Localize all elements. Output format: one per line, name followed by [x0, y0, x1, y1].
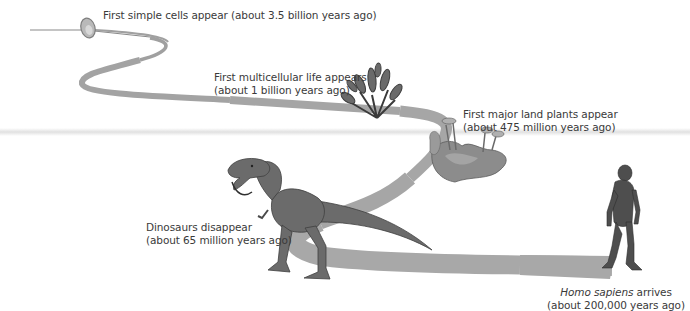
label-homo-sapiens: Homo sapiens arrives (about 200,000 year…: [541, 286, 690, 311]
label-dinosaurs-line2: (about 65 million years ago): [146, 234, 292, 247]
label-homo-sapiens-verb: arrives: [633, 286, 671, 298]
label-land-plants-line1: First major land plants appear: [463, 108, 618, 121]
evolution-timeline: First simple cells appear (about 3.5 bil…: [0, 0, 690, 311]
label-homo-sapiens-line1: Homo sapiens arrives: [541, 286, 690, 299]
label-multicellular: First multicellular life appears (about …: [214, 71, 367, 97]
label-land-plants: First major land plants appear (about 47…: [463, 108, 618, 134]
label-dinosaurs: Dinosaurs disappear (about 65 million ye…: [146, 221, 292, 247]
cell-icon: [79, 17, 98, 40]
label-multicellular-line2: (about 1 billion years ago): [214, 84, 367, 97]
label-dinosaurs-line1: Dinosaurs disappear: [146, 221, 292, 234]
label-simple-cells-line1: First simple cells appear (about 3.5 bil…: [103, 9, 377, 21]
label-land-plants-line2: (about 475 million years ago): [463, 121, 618, 134]
label-simple-cells: First simple cells appear (about 3.5 bil…: [103, 9, 377, 22]
species-name: Homo sapiens: [560, 286, 633, 298]
human-icon: [602, 165, 642, 270]
timeline-path-graphic: [0, 0, 690, 311]
label-homo-sapiens-line2: (about 200,000 years ago): [541, 299, 690, 311]
label-multicellular-line1: First multicellular life appears: [214, 71, 367, 84]
